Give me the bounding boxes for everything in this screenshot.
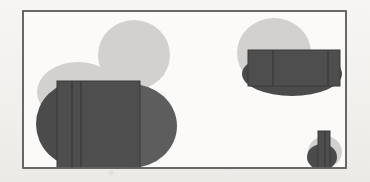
figure-canvas: Overlapping grayscale shape composition <box>0 0 370 182</box>
shape-composition-figure: Overlapping grayscale shape composition <box>0 0 370 182</box>
right-rectangle <box>248 50 340 86</box>
small-rectangle <box>318 131 330 168</box>
left-rectangle <box>57 81 140 168</box>
